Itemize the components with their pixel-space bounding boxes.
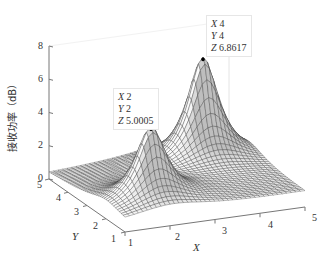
- datatip-x-label: X: [211, 18, 217, 29]
- peak-marker-2: [201, 58, 205, 62]
- y-tick-4: 4: [56, 193, 61, 203]
- surface-mesh: [49, 57, 305, 217]
- datatip-x-label: X: [118, 91, 124, 102]
- datatip-y-value: 2: [126, 103, 131, 114]
- datatip-peak-2: X 4 Y 4 Z 6.8617: [206, 15, 252, 57]
- x-axis-label: X: [193, 241, 200, 253]
- x-tick-4: 4: [268, 220, 273, 230]
- datatip-z-value: 5.0005: [126, 115, 154, 126]
- surface-plot: [0, 0, 334, 266]
- datatip-y-value: 4: [219, 30, 224, 41]
- z-tick-2: 2: [38, 140, 43, 150]
- datatip-y-label: Y: [118, 103, 124, 114]
- y-tick-3: 3: [74, 207, 79, 217]
- z-tick-4: 4: [38, 107, 43, 117]
- datatip-x-value: 2: [127, 91, 132, 102]
- z-tick-6: 6: [38, 74, 43, 84]
- x-tick-3: 3: [222, 226, 227, 236]
- y-tick-2: 2: [93, 221, 98, 231]
- datatip-z-value: 6.8617: [219, 42, 247, 53]
- datatip-z-label: Z: [211, 42, 217, 53]
- x-tick-2: 2: [175, 232, 180, 242]
- datatip-x-value: 4: [220, 18, 225, 29]
- datatip-peak-1: X 2 Y 2 Z 5.0005: [113, 88, 159, 130]
- z-tick-8: 8: [38, 41, 43, 51]
- z-axis-label: 接收功率（dB）: [4, 79, 19, 152]
- datatip-z-label: Z: [118, 115, 124, 126]
- y-tick-5: 5: [37, 180, 42, 190]
- y-axis-label: Y: [72, 230, 78, 242]
- datatip-y-label: Y: [211, 30, 217, 41]
- x-tick-5: 5: [312, 213, 317, 223]
- x-tick-1: 1: [128, 238, 133, 248]
- y-tick-1: 1: [111, 234, 116, 244]
